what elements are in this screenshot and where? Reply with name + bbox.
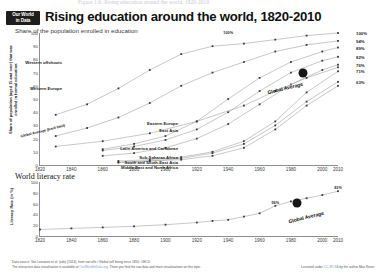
data-point <box>133 152 135 154</box>
chart-page: Figure 1.6: Rising education around the … <box>0 0 383 280</box>
chart1-y-axis-label: Share of population (aged 15 and over) t… <box>9 44 18 136</box>
chart2-plot-area <box>40 182 338 236</box>
data-point <box>133 225 135 227</box>
logo-line-2: in Data <box>6 18 40 24</box>
data-point <box>306 44 308 46</box>
data-point <box>243 147 245 149</box>
x-tick-label: 1940 <box>223 167 233 172</box>
data-point <box>196 138 198 140</box>
data-point <box>102 155 104 157</box>
data-point <box>243 105 245 107</box>
data-point <box>337 66 339 68</box>
chart1-plot-area <box>40 33 338 165</box>
data-point <box>227 98 229 100</box>
x-tick-label: 1960 <box>254 167 264 172</box>
data-point <box>321 60 323 62</box>
data-point <box>196 121 198 123</box>
x-tick-label: 1880 <box>129 238 139 243</box>
data-point <box>274 125 276 127</box>
data-point <box>212 220 214 222</box>
y-tick-label: 90 <box>24 44 38 49</box>
data-point <box>321 51 323 53</box>
series-line <box>40 191 338 229</box>
series-label: Western offshoots <box>25 60 62 65</box>
data-point <box>243 140 245 142</box>
y-tick-label: 100 <box>24 180 38 185</box>
x-tick-label: 1860 <box>98 238 108 243</box>
data-point <box>337 81 339 83</box>
data-point <box>71 228 73 230</box>
y-tick-label: 100 <box>24 31 38 36</box>
series-label: Middle East and North Africa <box>121 165 178 170</box>
data-point <box>102 227 104 229</box>
education-enrollment-chart: Share of population (aged 15 and over) t… <box>0 33 383 179</box>
data-point <box>337 40 339 42</box>
data-point <box>227 123 229 125</box>
global-average-marker <box>293 198 302 207</box>
data-point <box>243 43 245 45</box>
x-tick-label: 1920 <box>192 167 202 172</box>
data-point <box>337 56 339 58</box>
global-average-marker <box>299 68 308 77</box>
series-line <box>103 65 338 156</box>
chart2-x-ticks: 1820184018601880190019201940196019802000… <box>0 238 383 250</box>
data-point <box>259 77 261 79</box>
y-tick-label: 40 <box>24 110 38 115</box>
data-point <box>337 70 339 72</box>
license-link[interactable]: CC-BY-SA <box>324 265 339 269</box>
data-point <box>306 35 308 37</box>
chart1-end-labels: 100%94%89%82%76%71%63% <box>344 33 382 165</box>
data-point <box>212 45 214 47</box>
series-end-label: 89% <box>356 45 365 50</box>
x-tick-label: 1920 <box>192 238 202 243</box>
owid-link[interactable]: OurWorldInData.org <box>79 265 107 269</box>
data-point <box>259 90 261 92</box>
data-point <box>306 197 308 199</box>
data-point <box>118 117 120 119</box>
x-tick-label: 1840 <box>66 238 76 243</box>
data-point <box>290 72 292 74</box>
series-label: Latin America and Caribbean <box>120 146 178 151</box>
data-point <box>55 146 57 148</box>
series-end-label: 76% <box>356 62 365 67</box>
data-point <box>274 51 276 53</box>
data-point <box>227 111 229 113</box>
x-tick-label: 1980 <box>286 238 296 243</box>
data-point <box>321 194 323 196</box>
series-end-label: 94% <box>356 38 365 43</box>
data-point <box>259 103 261 105</box>
x-tick-label: 2000 <box>317 167 327 172</box>
data-point <box>306 92 308 94</box>
y-tick-label: 40 <box>24 212 38 217</box>
data-point <box>243 143 245 145</box>
data-label: 100% <box>223 31 233 35</box>
footer-interactive-line: The interactive data visualisation is av… <box>12 265 312 270</box>
world-literacy-rate-chart: World literacy rate Literacy Rate (in %)… <box>0 182 383 254</box>
data-point <box>180 85 182 87</box>
data-label: 56% <box>271 201 279 205</box>
our-world-in-data-logo: Our World in Data <box>6 11 40 25</box>
data-point <box>86 103 88 105</box>
chart2-x-axis <box>39 236 338 237</box>
data-point <box>196 129 198 131</box>
y-tick-label: 80 <box>24 190 38 195</box>
x-tick-label: 1860 <box>98 167 108 172</box>
data-point <box>196 222 198 224</box>
footer-license: Licensed under CC-BY-SA by the author Ma… <box>301 265 375 269</box>
data-point <box>337 85 339 87</box>
figure-caption-top: Figure 1.6: Rising education around the … <box>78 0 328 6</box>
data-point <box>102 140 104 142</box>
data-point <box>149 132 151 134</box>
series-label: Eastern Europe <box>147 121 178 126</box>
data-point <box>227 219 229 221</box>
chart2-y-axis-label: Literacy Rate (in %) <box>9 183 14 231</box>
series-label: East Asia <box>159 128 178 133</box>
y-tick-label: 60 <box>24 201 38 206</box>
logo-line-1: Our World <box>6 11 40 18</box>
series-line <box>103 48 338 150</box>
data-label: 83% <box>334 186 342 190</box>
license-text-b: by the author Max Roser. <box>339 265 376 269</box>
data-point <box>180 53 182 55</box>
series-end-label: 71% <box>356 69 365 74</box>
x-tick-label: 1960 <box>254 238 264 243</box>
